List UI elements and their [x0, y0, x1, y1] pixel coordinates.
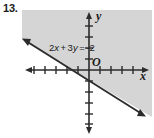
coordinate-plane-graph: y x O 2x+3y=-2	[0, 0, 154, 138]
x-axis-label: x	[139, 69, 146, 83]
origin-label: O	[92, 55, 101, 69]
equation-equals: =	[79, 42, 85, 53]
problem-figure: 13.	[0, 0, 154, 138]
y-axis-label: y	[94, 9, 102, 23]
equation-plus: +	[61, 42, 67, 53]
equation-annotation: 2x+3y=-2	[49, 42, 95, 53]
y-axis-bottom-arrow	[86, 127, 92, 134]
x-axis-left-arrow	[25, 67, 32, 73]
equation-rhs: -2	[86, 42, 94, 53]
svg-text:2x+3y=-2: 2x+3y=-2	[49, 42, 95, 53]
